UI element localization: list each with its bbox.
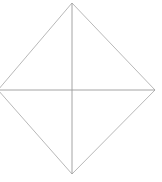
rhombus-figure xyxy=(0,0,162,182)
diagram-canvas xyxy=(0,0,162,182)
background-rect xyxy=(0,0,162,182)
